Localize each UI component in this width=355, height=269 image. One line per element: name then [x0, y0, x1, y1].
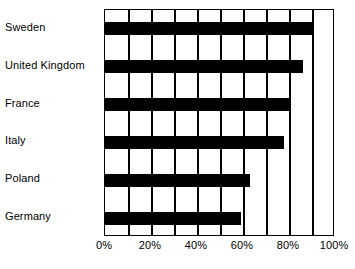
category-label: Germany — [5, 211, 100, 222]
plot-area — [104, 9, 334, 236]
category-label: Italy — [5, 135, 100, 146]
category-label: Poland — [5, 173, 100, 184]
bar — [105, 136, 284, 149]
category-label: France — [5, 98, 100, 109]
axis-tick-label: 80% — [277, 239, 299, 252]
axis-tick-label: 60% — [231, 239, 253, 252]
value-axis: 0%20%40%60%80%100% — [104, 239, 334, 259]
category-label: United Kingdom — [5, 60, 100, 71]
bar — [105, 22, 312, 35]
category-label: Sweden — [5, 22, 100, 33]
bar — [105, 98, 289, 111]
axis-tick-label: 40% — [185, 239, 207, 252]
axis-tick-label: 100% — [320, 239, 349, 252]
axis-tick-label: 20% — [139, 239, 161, 252]
bar — [105, 60, 303, 73]
bars-layer — [105, 10, 333, 235]
bar — [105, 174, 250, 187]
bar-chart: SwedenUnited KingdomFranceItalyPolandGer… — [0, 0, 355, 269]
bar — [105, 212, 241, 225]
category-axis: SwedenUnited KingdomFranceItalyPolandGer… — [0, 9, 100, 236]
axis-tick-label: 0% — [96, 239, 112, 252]
